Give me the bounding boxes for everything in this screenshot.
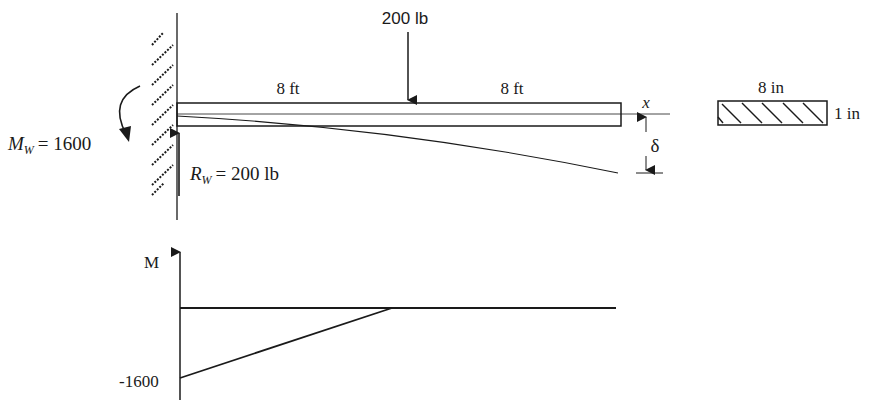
cross-section: 8 in 1 in — [718, 78, 860, 125]
moment-diagram: M -1600 — [119, 252, 616, 400]
section-height-label: 1 in — [834, 104, 860, 123]
force-reaction-label: RW= 200 lb — [189, 163, 279, 187]
moment-reaction: MW= 1600 — [7, 86, 140, 157]
moment-axis-label: M — [144, 253, 159, 272]
moment-reaction-label: MW= 1600 — [7, 133, 91, 157]
point-load: 200 lb — [382, 9, 428, 100]
force-reaction: RW= 200 lb — [179, 133, 279, 196]
deflection-dimension: δ — [636, 117, 663, 173]
span-right-label: 8 ft — [500, 79, 523, 98]
load-label: 200 lb — [382, 9, 428, 28]
delta-label: δ — [651, 135, 660, 156]
moment-min-label: -1600 — [119, 372, 159, 391]
x-axis-label: x — [641, 93, 650, 112]
section-width-label: 8 in — [758, 78, 784, 97]
cantilever-beam-diagram: 200 lb 8 ft 8 ft x δ MW= 1600 RW= 200 lb — [0, 0, 881, 405]
fixed-wall — [152, 13, 177, 220]
span-left-label: 8 ft — [276, 79, 299, 98]
